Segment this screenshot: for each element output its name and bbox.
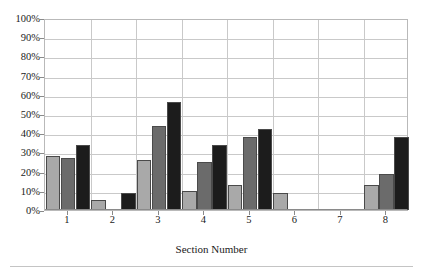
x-axis-tick-mark: [385, 211, 386, 215]
bar: [243, 137, 258, 210]
bar: [152, 126, 167, 210]
x-axis-tick-mark: [249, 211, 250, 215]
y-axis-tick-label: 40%: [0, 129, 40, 140]
bar-group: [364, 20, 410, 210]
bar-group: [182, 20, 228, 210]
y-axis-tick-label: 0%: [0, 206, 40, 217]
bar-group: [318, 20, 364, 210]
x-axis-tick-mark: [340, 211, 341, 215]
bar: [258, 129, 273, 210]
bar: [212, 145, 227, 210]
bar-group: [136, 20, 182, 210]
bar: [273, 193, 288, 210]
x-axis-tick-mark: [294, 211, 295, 215]
y-axis-tick-label: 80%: [0, 52, 40, 63]
bar: [228, 185, 243, 210]
y-axis-tick-label: 90%: [0, 33, 40, 44]
bar-group: [227, 20, 273, 210]
x-axis-tick-label: 7: [320, 215, 360, 226]
bar: [46, 156, 61, 210]
x-axis-tick-mark: [112, 211, 113, 215]
y-axis-tick-label: 60%: [0, 91, 40, 102]
y-axis-tick-label: 100%: [0, 14, 40, 25]
footer-divider: [10, 266, 413, 267]
x-axis-tick-mark: [203, 211, 204, 215]
bar: [76, 145, 91, 210]
y-axis-tick-label: 20%: [0, 167, 40, 178]
x-axis-tick-label: 6: [274, 215, 314, 226]
y-axis-tick-label: 30%: [0, 148, 40, 159]
x-axis-tick-label: 5: [229, 215, 269, 226]
x-axis-tick-label: 2: [92, 215, 132, 226]
bar: [197, 162, 212, 210]
bar: [61, 158, 76, 210]
bar-group: [273, 20, 319, 210]
y-axis-tick-label: 50%: [0, 110, 40, 121]
y-axis-tick-mark: [39, 211, 44, 212]
x-axis-tick-mark: [158, 211, 159, 215]
x-axis-tick-label: 8: [365, 215, 405, 226]
bar: [394, 137, 409, 210]
axis-baseline: [45, 209, 407, 210]
bar: [167, 102, 182, 210]
y-axis-tick-label: 70%: [0, 71, 40, 82]
bar: [137, 160, 152, 210]
bar-group: [91, 20, 137, 210]
bar: [182, 191, 197, 210]
bar-group: [45, 20, 91, 210]
x-axis-tick-mark: [67, 211, 68, 215]
bar: [364, 185, 379, 210]
bar: [121, 193, 136, 210]
x-axis-title: Section Number: [0, 243, 423, 255]
y-axis-tick-label: 10%: [0, 187, 40, 198]
chart-figure: 0%10%20%30%40%50%60%70%80%90%100% 123456…: [0, 0, 423, 271]
x-axis-tick-label: 4: [183, 215, 223, 226]
bar: [379, 174, 394, 210]
x-axis-tick-label: 3: [138, 215, 178, 226]
x-axis-tick-label: 1: [47, 215, 87, 226]
plot-area: [44, 19, 408, 211]
